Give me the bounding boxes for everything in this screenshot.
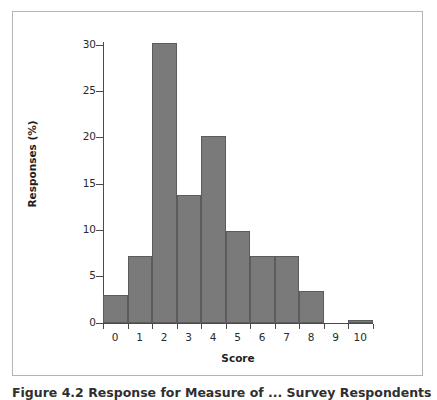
x-tick-5 — [226, 324, 227, 329]
y-tick-label-0: 0 — [70, 317, 96, 328]
x-axis-title: Score — [103, 352, 373, 364]
y-tick-5 — [96, 276, 103, 277]
y-tick-label-30: 30 — [70, 39, 96, 50]
bar-score-1 — [128, 256, 153, 324]
x-tick-label-10: 10 — [347, 332, 373, 343]
y-tick-label-wrap-30: 30 — [60, 39, 96, 51]
x-tick-label-9: 9 — [323, 332, 349, 343]
bar-score-5 — [226, 231, 251, 323]
y-tick-label-wrap-20: 20 — [60, 131, 96, 143]
bar-score-4 — [201, 136, 226, 323]
bar-score-10 — [348, 320, 373, 323]
y-tick-label-wrap-5: 5 — [60, 270, 96, 282]
x-tick-10 — [348, 324, 349, 329]
y-axis-title: Responses (%) — [26, 104, 38, 224]
y-tick-label-15: 15 — [70, 178, 96, 189]
x-tick-9 — [324, 324, 325, 329]
x-tick-label-4: 4 — [200, 332, 226, 343]
x-tick-7 — [275, 324, 276, 329]
x-tick-label-1: 1 — [127, 332, 153, 343]
x-tick-4 — [201, 324, 202, 329]
y-tick-label-wrap-10: 10 — [60, 224, 96, 236]
y-tick-25 — [96, 91, 103, 92]
x-tick-0 — [103, 324, 104, 329]
bar-score-2 — [152, 43, 177, 323]
y-tick-label-5: 5 — [70, 270, 96, 281]
x-tick-1 — [128, 324, 129, 329]
x-tick-6 — [250, 324, 251, 329]
bar-score-3 — [177, 195, 202, 323]
x-tick-8 — [299, 324, 300, 329]
bar-score-6 — [250, 256, 275, 324]
x-tick-label-3: 3 — [176, 332, 202, 343]
figure-caption: Figure 4.2 Response for Measure of ... S… — [12, 386, 432, 400]
y-tick-label-10: 10 — [70, 224, 96, 235]
x-tick-2 — [152, 324, 153, 329]
y-axis-line — [103, 42, 104, 324]
bar-score-7 — [275, 256, 300, 324]
y-tick-label-25: 25 — [70, 85, 96, 96]
x-tick-label-0: 0 — [102, 332, 128, 343]
x-axis-line — [103, 323, 373, 324]
x-tick-label-8: 8 — [298, 332, 324, 343]
y-tick-label-20: 20 — [70, 131, 96, 142]
x-tick-3 — [177, 324, 178, 329]
y-tick-label-wrap-15: 15 — [60, 178, 96, 190]
y-tick-10 — [96, 230, 103, 231]
y-tick-label-wrap-25: 25 — [60, 85, 96, 97]
y-tick-0 — [96, 323, 103, 324]
x-tick-label-7: 7 — [274, 332, 300, 343]
bar-score-0 — [103, 295, 128, 323]
bar-score-8 — [299, 291, 324, 324]
x-tick-label-2: 2 — [151, 332, 177, 343]
y-tick-30 — [96, 45, 103, 46]
x-tick-label-5: 5 — [225, 332, 251, 343]
y-tick-20 — [96, 137, 103, 138]
y-tick-label-wrap-0: 0 — [60, 317, 96, 329]
x-tick-label-6: 6 — [249, 332, 275, 343]
y-tick-15 — [96, 184, 103, 185]
x-tick-end — [373, 324, 374, 329]
